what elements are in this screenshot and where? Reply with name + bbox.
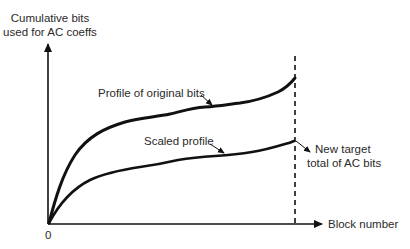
origin-label: 0 bbox=[45, 228, 51, 242]
target-label-line2: total of AC bits bbox=[307, 156, 381, 170]
target-label: New target total of AC bits bbox=[307, 142, 381, 170]
curve-original-label: Profile of original bits bbox=[98, 86, 205, 100]
y-axis-label-line2: used for AC coeffs bbox=[2, 25, 98, 39]
target-label-line1: New target bbox=[307, 142, 381, 156]
y-axis-label: Cumulative bits used for AC coeffs bbox=[2, 11, 98, 39]
y-axis-label-line1: Cumulative bits bbox=[2, 11, 98, 25]
x-axis-label: Block number bbox=[328, 217, 398, 231]
curve-scaled-label: Scaled profile bbox=[144, 134, 214, 148]
curve-scaled-profile bbox=[49, 141, 294, 223]
